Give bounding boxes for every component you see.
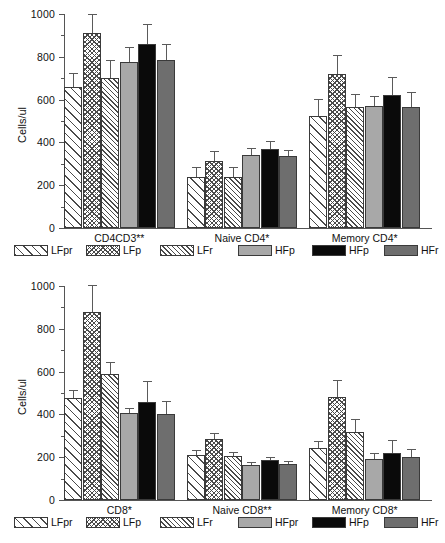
bar — [279, 156, 297, 228]
bar — [402, 107, 420, 228]
y-tick-minor — [61, 393, 64, 394]
y-tick-label: 0 — [18, 222, 55, 234]
error-bar-cap — [69, 390, 78, 391]
y-tick-label: 200 — [18, 451, 55, 463]
error-bar-stem — [147, 381, 148, 402]
error-bar-stem — [318, 99, 319, 116]
legend-label: HFr — [421, 244, 439, 256]
legend-item: HFp — [312, 244, 369, 256]
legend-item: HFp — [238, 244, 295, 256]
error-bar-stem — [411, 449, 412, 457]
bar — [138, 44, 156, 228]
y-tick-major — [59, 500, 64, 501]
error-bar-stem — [270, 141, 271, 148]
bar — [328, 74, 346, 228]
legend-item: HFp — [312, 516, 369, 528]
legend-label: LFpr — [51, 244, 73, 256]
y-tick-label: 200 — [18, 179, 55, 191]
chart-panel-cd4: 02004006008001000Cells/ulCD4CD3**Naive C… — [0, 0, 445, 272]
error-bar-cap — [247, 462, 256, 463]
legend-label: LFp — [123, 244, 141, 256]
legend-swatch-lfr — [160, 245, 194, 256]
error-bar-cap — [351, 419, 360, 420]
error-bar-cap — [266, 457, 275, 458]
bar — [328, 397, 346, 500]
error-bar-cap — [388, 440, 397, 441]
error-bar-stem — [129, 47, 130, 62]
error-bar-cap — [162, 401, 171, 402]
error-bar-cap — [162, 44, 171, 45]
bar — [261, 149, 279, 228]
bar — [83, 312, 101, 500]
error-bar-stem — [355, 94, 356, 107]
bar — [157, 414, 175, 500]
y-tick-major — [59, 286, 64, 287]
bar — [120, 62, 138, 228]
error-bar-cap — [247, 148, 256, 149]
legend-swatch-hfp — [238, 245, 272, 256]
bar — [279, 464, 297, 500]
y-tick-minor — [61, 307, 64, 308]
bar — [242, 155, 260, 228]
error-bar-stem — [110, 362, 111, 374]
error-bar-stem — [166, 401, 167, 414]
error-bar-stem — [73, 390, 74, 398]
bar — [101, 374, 119, 500]
y-tick-label: 600 — [18, 94, 55, 106]
error-bar-cap — [314, 441, 323, 442]
y-axis-title: Cells/ul — [16, 107, 28, 143]
bar — [64, 398, 82, 500]
legend-label: LFr — [197, 516, 213, 528]
error-bar-stem — [110, 60, 111, 78]
bar — [187, 455, 205, 500]
error-bar-cap — [370, 453, 379, 454]
legend-swatch-lfp — [86, 245, 120, 256]
legend-swatch-lfpr — [14, 245, 48, 256]
error-bar-cap — [143, 381, 152, 382]
error-bar-cap — [407, 92, 416, 93]
error-bar-stem — [251, 148, 252, 155]
error-bar-stem — [392, 440, 393, 453]
error-bar-cap — [333, 380, 342, 381]
error-bar-cap — [229, 167, 238, 168]
legend-item: LFr — [160, 244, 213, 256]
bar — [157, 60, 175, 228]
bar — [261, 460, 279, 500]
legend-item: HFr — [384, 516, 439, 528]
error-bar-stem — [92, 285, 93, 312]
error-bar-stem — [92, 14, 93, 33]
error-bar-stem — [355, 419, 356, 431]
x-axis-category-label: Memory CD8* — [332, 504, 398, 516]
y-tick-major — [59, 14, 64, 15]
error-bar-cap — [333, 55, 342, 56]
legend-item: LFpr — [14, 244, 73, 256]
x-axis-category-label: CD8* — [107, 504, 132, 516]
bar — [101, 78, 119, 228]
error-bar-stem — [337, 55, 338, 74]
y-tick-label: 1000 — [18, 280, 55, 292]
bar — [309, 116, 327, 228]
error-bar-cap — [284, 150, 293, 151]
legend-item: LFp — [86, 244, 141, 256]
bar — [346, 107, 364, 228]
legend-item: HFpr — [238, 516, 298, 528]
error-bar-cap — [88, 285, 97, 286]
y-tick-minor — [61, 78, 64, 79]
y-tick-major — [59, 57, 64, 58]
y-tick-label: 800 — [18, 51, 55, 63]
error-bar-stem — [318, 441, 319, 449]
error-bar-cap — [266, 141, 275, 142]
y-tick-label: 1000 — [18, 8, 55, 20]
bar — [187, 177, 205, 228]
bar — [205, 439, 223, 500]
legend-label: LFp — [123, 516, 141, 528]
legend-swatch-lfp — [86, 517, 120, 528]
x-axis-line — [64, 500, 432, 501]
legend-label: HFp — [349, 516, 369, 528]
error-bar-stem — [166, 44, 167, 60]
error-bar-cap — [284, 461, 293, 462]
x-axis-category-label: CD4CD3** — [94, 232, 144, 244]
bar — [365, 459, 383, 500]
legend-item: LFr — [160, 516, 213, 528]
legend-label: HFpr — [275, 516, 298, 528]
